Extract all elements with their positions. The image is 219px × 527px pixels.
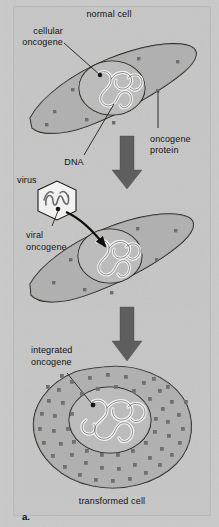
viral-oncogene-label-line1: viral <box>26 230 43 240</box>
transformed-cell-title: transformed cell <box>79 496 145 506</box>
oncogene-protein-label-line1: oncogene <box>150 134 191 144</box>
cellular-oncogene-label-line2: oncogene <box>22 37 63 47</box>
oncogene-protein-label-line2: protein <box>150 145 179 155</box>
cellular-oncogene-label-line1: cellular <box>33 26 63 36</box>
stage-transformed-cell <box>33 366 191 488</box>
integrated-oncogene-label-line2: oncogene <box>31 357 72 367</box>
figure-panel: normal cell cellular oncogene oncogene p… <box>0 0 219 527</box>
viral-oncogene-label-line2: oncogene <box>26 242 67 252</box>
normal-cell-title: normal cell <box>86 9 131 19</box>
viral-oncogene-site <box>56 207 61 212</box>
panel-label: a. <box>22 511 30 522</box>
virus-label: virus <box>17 175 37 185</box>
dna-label: DNA <box>64 157 83 167</box>
integrated-oncogene-label-line1: integrated <box>31 345 73 355</box>
